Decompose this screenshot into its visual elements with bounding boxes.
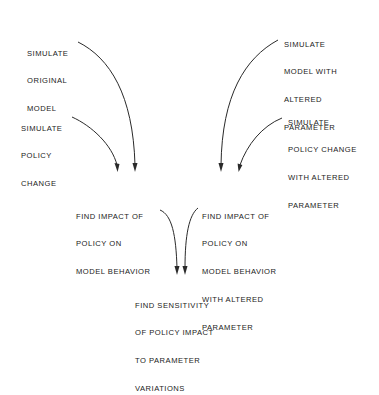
node-line: FIND IMPACT OF bbox=[76, 212, 151, 221]
edge-sim-policy-to-impact bbox=[72, 117, 117, 165]
edge-impact-to-sensitivity bbox=[160, 210, 177, 268]
arrowhead-sim-altered bbox=[219, 163, 224, 172]
node-simulate-policy-change: SIMULATE POLICY CHANGE bbox=[21, 105, 62, 207]
node-find-impact-of-policy: FIND IMPACT OF POLICY ON MODEL BEHAVIOR bbox=[76, 193, 151, 295]
arrowhead-sim-original bbox=[133, 163, 138, 172]
node-line: POLICY ON bbox=[76, 239, 151, 248]
arrowhead-impact-altered bbox=[183, 266, 188, 275]
node-line: CHANGE bbox=[21, 179, 62, 188]
edge-sim-policy-altered-to-impact-altered bbox=[240, 118, 282, 165]
edge-sim-original-to-impact bbox=[78, 42, 135, 165]
node-line: TO PARAMETER bbox=[135, 356, 214, 365]
node-line: MODEL WITH bbox=[284, 67, 337, 76]
node-line: SIMULATE bbox=[288, 118, 357, 127]
edge-impact-altered-to-sensitivity bbox=[185, 208, 198, 268]
node-line: SIMULATE bbox=[27, 49, 68, 58]
node-line: PARAMETER bbox=[288, 201, 357, 210]
node-line: FIND IMPACT OF bbox=[202, 212, 277, 221]
node-line: POLICY ON bbox=[202, 239, 277, 248]
node-line: MODEL BEHAVIOR bbox=[76, 267, 151, 276]
node-line: POLICY CHANGE bbox=[288, 145, 357, 154]
node-line: FIND SENSITIVITY bbox=[135, 301, 214, 310]
node-line: SIMULATE bbox=[284, 40, 337, 49]
arrowhead-sim-policy bbox=[115, 163, 120, 172]
arrowhead-impact bbox=[175, 266, 180, 275]
arrowhead-sim-policy-altered bbox=[238, 164, 243, 173]
node-line: VARIATIONS bbox=[135, 384, 214, 393]
node-line: OF POLICY IMPACT bbox=[135, 328, 214, 337]
node-line: POLICY bbox=[21, 151, 62, 160]
node-line: ORIGINAL bbox=[27, 76, 68, 85]
node-find-sensitivity: FIND SENSITIVITY OF POLICY IMPACT TO PAR… bbox=[135, 282, 214, 395]
node-line: SIMULATE bbox=[21, 124, 62, 133]
node-line: MODEL BEHAVIOR bbox=[202, 267, 277, 276]
node-simulate-policy-change-altered-parameter: SIMULATE POLICY CHANGE WITH ALTERED PARA… bbox=[288, 99, 357, 229]
node-line: WITH ALTERED bbox=[288, 173, 357, 182]
